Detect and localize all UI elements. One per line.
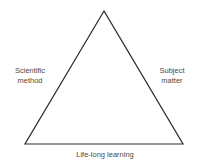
left-label-line2: method xyxy=(8,76,52,86)
left-side-label: Scientific method xyxy=(8,66,52,86)
left-label-line1: Scientific xyxy=(8,66,52,76)
right-side-label: Subject matter xyxy=(152,66,192,86)
right-label-line2: matter xyxy=(152,76,192,86)
right-label-line1: Subject xyxy=(152,66,192,76)
base-label: Life-long learning xyxy=(60,150,150,160)
triangle-diagram: Scientific method Subject matter Life-lo… xyxy=(0,0,199,164)
